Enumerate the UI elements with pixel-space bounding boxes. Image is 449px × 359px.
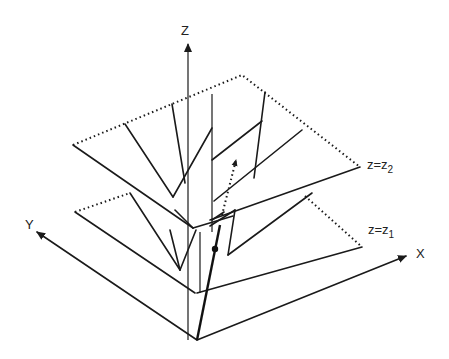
upper-plane-label-main: z=z [367,157,388,172]
diagram-canvas [0,0,449,359]
x-axis-label: X [416,247,425,260]
lower-plane-label: z=z1 [368,223,394,240]
lower-plane-label-main: z=z [368,222,389,237]
axes [37,44,406,340]
z-axis-label: Z [181,24,189,37]
y-axis [37,232,197,340]
upper-surface [73,75,360,232]
y-axis-label: Y [25,218,34,231]
lower-surface [75,193,362,293]
upper-plane-label: z=z2 [367,158,393,175]
lower-plane-label-sub: 1 [389,229,395,240]
trajectory-dotted [222,160,236,215]
x-axis [197,256,406,340]
upper-plane-label-sub: 2 [388,164,394,175]
trajectory-point [212,246,218,252]
